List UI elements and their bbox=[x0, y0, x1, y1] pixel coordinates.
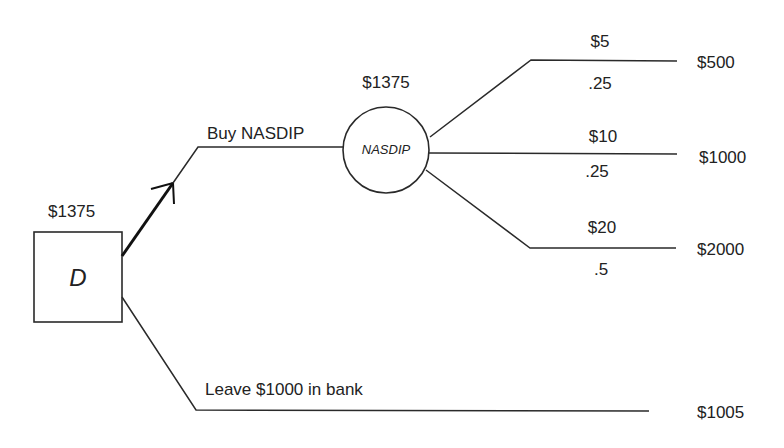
bank-branch-line bbox=[122, 297, 649, 411]
chance-node-label: NASDIP bbox=[362, 143, 410, 156]
decision-node-label: D bbox=[69, 266, 86, 290]
outcome-3-probability: .5 bbox=[594, 261, 608, 278]
chosen-branch-arrow bbox=[122, 183, 173, 256]
chance-node-value: $1375 bbox=[362, 74, 409, 91]
outcome-1-probability: .25 bbox=[588, 75, 612, 92]
outcome-1-payoff: $500 bbox=[697, 54, 735, 71]
outcome-branch-2 bbox=[429, 153, 677, 154]
outcome-2-probability: .25 bbox=[585, 163, 609, 180]
outcome-branch-3 bbox=[426, 170, 676, 248]
outcome-2-payoff: $1000 bbox=[699, 149, 746, 166]
outcome-3-payoff: $2000 bbox=[697, 241, 744, 258]
outcome-1-price: $5 bbox=[591, 33, 610, 50]
branch-label-buy: Buy NASDIP bbox=[207, 125, 304, 142]
outcome-branch-1 bbox=[430, 60, 677, 137]
decision-node-value: $1375 bbox=[48, 203, 95, 220]
outcome-2-price: $10 bbox=[589, 128, 617, 145]
bank-payoff: $1005 bbox=[697, 404, 744, 421]
buy-branch-line bbox=[173, 147, 344, 183]
branch-label-bank: Leave $1000 in bank bbox=[205, 381, 363, 398]
decision-tree-lines bbox=[0, 0, 784, 448]
outcome-3-price: $20 bbox=[588, 219, 616, 236]
